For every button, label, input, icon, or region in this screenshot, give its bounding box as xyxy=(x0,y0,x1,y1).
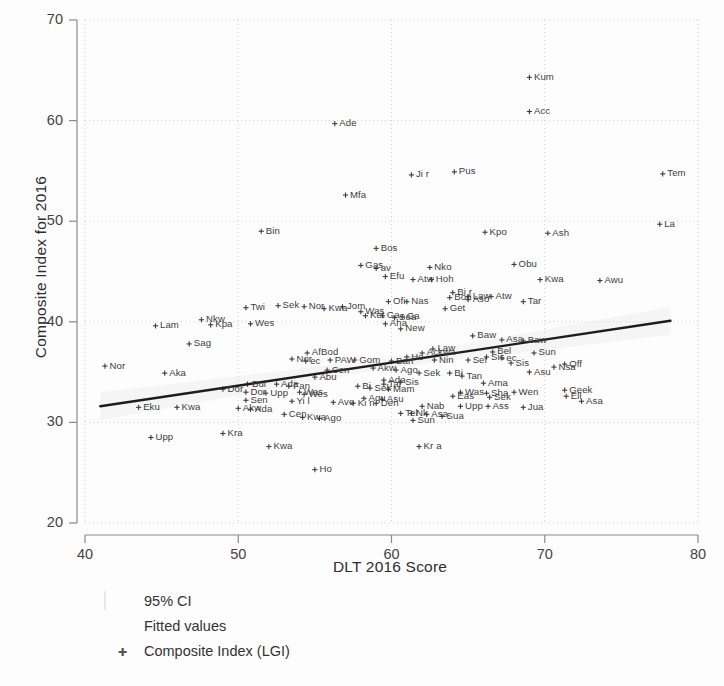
point-label: Ell xyxy=(571,391,582,401)
point-marker-icon: ✚ xyxy=(100,642,144,660)
point-label: Upp xyxy=(270,388,288,398)
point-label: Sek xyxy=(375,383,392,393)
point-label: Baw xyxy=(528,335,547,345)
point-label: Get xyxy=(450,303,466,313)
point-label: Ass xyxy=(493,401,509,411)
data-point xyxy=(282,412,287,417)
x-tick-label: 50 xyxy=(218,546,258,562)
scatter-plot-figure: 2030405060704050607080 KumAccAdeTemPusJi… xyxy=(0,0,724,686)
point-label: Wes xyxy=(255,318,274,328)
data-point xyxy=(410,418,415,423)
point-label: Asu xyxy=(534,367,551,377)
point-label: Eku xyxy=(143,402,160,412)
point-label: Pus xyxy=(459,166,476,176)
data-point xyxy=(597,278,602,283)
point-label: Ada xyxy=(255,404,272,414)
point-label: Ago xyxy=(401,365,418,375)
legend-label-points: Composite Index (LGI) xyxy=(144,643,290,659)
chart-legend: 95% CI Fitted values ✚ Composite Index (… xyxy=(100,588,430,663)
point-label: New xyxy=(405,323,425,333)
point-label: La xyxy=(664,219,675,229)
data-point-markers xyxy=(102,75,665,473)
data-point xyxy=(538,277,543,282)
point-label: Kpa xyxy=(215,319,232,329)
point-label: Dor xyxy=(227,384,243,394)
data-point xyxy=(545,231,550,236)
data-point xyxy=(485,404,490,409)
point-label: Sef xyxy=(473,355,488,365)
point-label: Nko xyxy=(434,262,451,272)
point-label: Jom xyxy=(347,301,365,311)
point-label: Awu xyxy=(604,275,623,285)
data-point xyxy=(332,121,337,126)
point-label: Den xyxy=(381,398,399,408)
point-label: Sun xyxy=(417,415,434,425)
point-label: Kpo xyxy=(489,227,506,237)
point-label: PAW xyxy=(335,355,356,365)
data-point xyxy=(521,299,526,304)
point-label: Bon xyxy=(454,292,471,302)
point-label: Kwa xyxy=(329,303,348,313)
data-point xyxy=(383,321,388,326)
point-label: Sis xyxy=(491,352,505,362)
point-label: Ji r xyxy=(416,169,429,179)
data-point xyxy=(374,246,379,251)
point-label: Ofi xyxy=(393,296,406,306)
point-label: Wes xyxy=(309,389,328,399)
point-label: ec xyxy=(310,356,320,366)
point-label: Nas xyxy=(411,296,428,306)
point-label: Kwa xyxy=(545,274,564,284)
y-tick-label: 30 xyxy=(29,413,63,429)
point-label: Asa xyxy=(586,396,603,406)
point-label: Baw xyxy=(477,330,496,340)
point-label: Kra xyxy=(227,428,242,438)
data-point xyxy=(427,265,432,270)
point-label: Cen xyxy=(289,409,307,419)
data-point xyxy=(527,109,532,114)
point-label: Sek xyxy=(424,368,441,378)
point-label: Upp xyxy=(465,401,483,411)
data-point xyxy=(416,444,421,449)
data-point xyxy=(331,400,336,405)
point-label: Tem xyxy=(667,168,685,178)
y-axis-title: Composite Index for 2016 xyxy=(32,142,50,392)
data-point xyxy=(482,230,487,235)
data-point xyxy=(409,172,414,177)
data-point xyxy=(512,390,517,395)
data-point xyxy=(312,467,317,472)
point-label: Yi l xyxy=(296,396,309,406)
point-label: Eas xyxy=(457,391,474,401)
point-label: Sag xyxy=(194,338,211,348)
data-point xyxy=(199,317,204,322)
data-point xyxy=(447,295,452,300)
point-label: Sun xyxy=(539,347,556,357)
point-label: Bos xyxy=(381,243,398,253)
point-label: Ama xyxy=(488,378,508,388)
data-point xyxy=(386,299,391,304)
data-point xyxy=(102,363,107,368)
data-point xyxy=(398,411,403,416)
legend-label-fitted: Fitted values xyxy=(144,618,226,634)
data-point xyxy=(302,304,307,309)
legend-label-ci: 95% CI xyxy=(144,593,192,609)
point-label: Bi xyxy=(362,381,371,391)
point-label: Sek xyxy=(283,300,300,310)
data-point xyxy=(452,169,457,174)
data-point xyxy=(481,381,486,386)
data-point xyxy=(562,388,567,393)
legend-item-points: ✚ Composite Index (LGI) xyxy=(100,638,430,663)
point-label: Kwa xyxy=(273,441,292,451)
point-label: Mfa xyxy=(350,190,366,200)
point-label: Wen xyxy=(519,387,539,397)
legend-item-ci: 95% CI xyxy=(100,588,430,613)
data-point xyxy=(527,75,532,80)
x-axis-title: DLT 2016 Score xyxy=(300,558,480,576)
point-label: Bin xyxy=(266,226,280,236)
point-label: Nin xyxy=(439,355,454,365)
data-point xyxy=(527,370,532,375)
x-tick-label: 40 xyxy=(65,546,105,562)
point-label: Akw xyxy=(378,363,396,373)
data-point xyxy=(236,406,241,411)
point-label: Mam xyxy=(393,384,415,394)
point-label: Ho xyxy=(319,464,331,474)
